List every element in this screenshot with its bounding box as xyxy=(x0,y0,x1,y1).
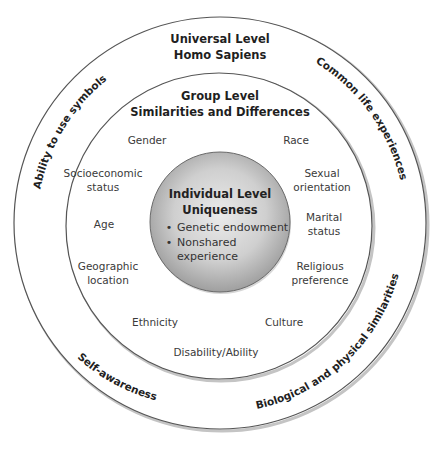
group-item-age: Age xyxy=(94,218,114,230)
svg-text:preference: preference xyxy=(292,274,349,286)
group-item-race: Race xyxy=(283,134,309,146)
group-level-subtitle: Similarities and Differences xyxy=(130,105,310,119)
svg-text:orientation: orientation xyxy=(293,181,350,193)
bullet-icon: • xyxy=(166,236,173,249)
svg-text:status: status xyxy=(87,181,119,193)
individual-level-subtitle: Uniqueness xyxy=(182,203,258,217)
svg-text:Geographic: Geographic xyxy=(78,260,139,272)
svg-text:status: status xyxy=(308,225,340,237)
svg-text:Marital: Marital xyxy=(306,211,342,223)
three-level-identity-diagram: Universal Level Homo Sapiens Ability to … xyxy=(0,0,433,454)
group-item-ethnicity: Ethnicity xyxy=(132,316,178,328)
universal-level-subtitle: Homo Sapiens xyxy=(174,48,267,62)
svg-text:experience: experience xyxy=(177,250,238,263)
universal-level-title: Universal Level xyxy=(170,32,269,46)
bullet-icon: • xyxy=(166,221,173,234)
bullet-nonshared-experience: • Nonshared experience xyxy=(166,236,238,263)
individual-level-title: Individual Level xyxy=(169,187,272,201)
group-item-culture: Culture xyxy=(265,316,303,328)
svg-text:Genetic endowment: Genetic endowment xyxy=(177,221,289,234)
svg-text:Nonshared: Nonshared xyxy=(177,236,236,249)
svg-text:location: location xyxy=(87,274,129,286)
svg-text:Sexual: Sexual xyxy=(304,167,339,179)
group-level-title: Group Level xyxy=(181,89,259,103)
group-item-gender: Gender xyxy=(128,134,167,146)
group-item-disability-ability: Disability/Ability xyxy=(173,346,258,358)
bullet-genetic-endowment: • Genetic endowment xyxy=(166,221,289,234)
svg-text:Socioeconomic: Socioeconomic xyxy=(64,167,143,179)
svg-text:Religious: Religious xyxy=(296,260,343,272)
